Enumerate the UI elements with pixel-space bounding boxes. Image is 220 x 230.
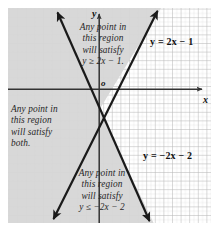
annotation-bottom-line-3: will satisfy: [58, 191, 146, 202]
annotation-top-line-3: will satisfy: [62, 45, 144, 56]
x-axis-label: x: [203, 94, 208, 105]
graph-figure: y x o y = 2x − 1 y = −2x − 2 Any point i…: [0, 0, 220, 230]
annotation-bottom-line-4: y ≤ −2x − 2: [58, 202, 146, 213]
annotation-top-region: Any point in this region will satisfy y …: [62, 22, 144, 68]
origin-label: o: [101, 78, 106, 88]
annotation-top-line-2: this region: [62, 33, 144, 44]
annotation-left-line-1: Any point in: [11, 104, 91, 115]
annotation-left-region: Any point in this region will satisfy bo…: [11, 104, 91, 150]
annotation-left-line-4: both.: [11, 138, 91, 149]
annotation-top-line-4: y ≥ 2x − 1.: [62, 56, 144, 67]
annotation-left-line-2: this region: [11, 115, 91, 126]
y-axis-label: y: [92, 8, 96, 19]
annotation-left-line-3: will satisfy: [11, 127, 91, 138]
annotation-bottom-line-2: this region: [58, 179, 146, 190]
annotation-top-line-1: Any point in: [62, 22, 144, 33]
equation-label-upper-line: y = 2x − 1: [150, 36, 193, 47]
equation-label-lower-line: y = −2x − 2: [143, 150, 192, 161]
annotation-bottom-region: Any point in this region will satisfy y …: [58, 168, 146, 214]
annotation-bottom-line-1: Any point in: [58, 168, 146, 179]
